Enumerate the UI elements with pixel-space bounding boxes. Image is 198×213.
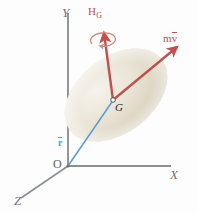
position-vector-symbol: r — [58, 138, 62, 148]
position-vector-label: r — [58, 138, 62, 148]
y-axis-label: Y — [62, 6, 69, 19]
linear-momentum-label: mv — [163, 33, 177, 44]
figure-canvas: Y X Z O G HG mv r — [0, 0, 198, 213]
origin-label: O — [53, 158, 62, 170]
origin-marker — [66, 164, 69, 167]
angular-momentum-symbol: H — [88, 5, 96, 17]
angular-momentum-subscript: G — [96, 11, 102, 20]
mass-symbol: m — [163, 32, 172, 44]
x-axis-label: X — [170, 168, 178, 181]
z-axis-label: Z — [14, 194, 21, 207]
spin-arrow-icon — [91, 33, 116, 46]
velocity-symbol: v — [172, 33, 178, 44]
angular-momentum-label: HG — [88, 6, 102, 20]
center-of-mass-label: G — [115, 102, 123, 113]
